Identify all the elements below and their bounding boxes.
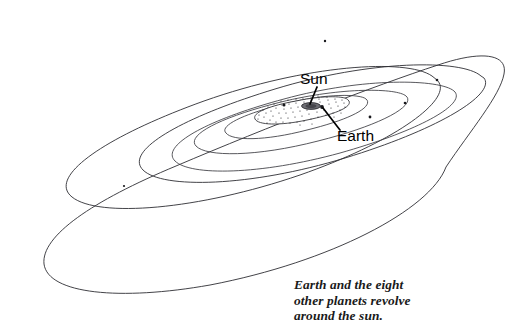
- inner-stippled-disc: [255, 97, 350, 124]
- planet-dot-orbit4-right: [369, 116, 372, 119]
- planet-dot-orbit6-top: [324, 40, 326, 42]
- planet-dot-orbit4-bottom: [123, 185, 125, 187]
- caption-line-2: other planets revolve: [294, 293, 474, 309]
- planet-dot-orbit6-right: [436, 79, 439, 82]
- outer-eccentric-orbit: [44, 56, 505, 293]
- caption-line-1: Earth and the eight: [294, 277, 474, 293]
- earth-label: Earth: [337, 127, 374, 144]
- sun-label: Sun: [300, 70, 328, 87]
- figure-caption: Earth and the eight other planets revolv…: [294, 277, 474, 324]
- planet-dot-orbit3-left: [283, 104, 286, 107]
- planet-dot-orbit5-right: [404, 102, 407, 105]
- figure-canvas: Sun Earth Earth and the eight other plan…: [0, 0, 527, 334]
- orbit-6: [66, 66, 440, 208]
- orbit-group: [44, 56, 505, 293]
- caption-line-3: around the sun.: [294, 308, 474, 324]
